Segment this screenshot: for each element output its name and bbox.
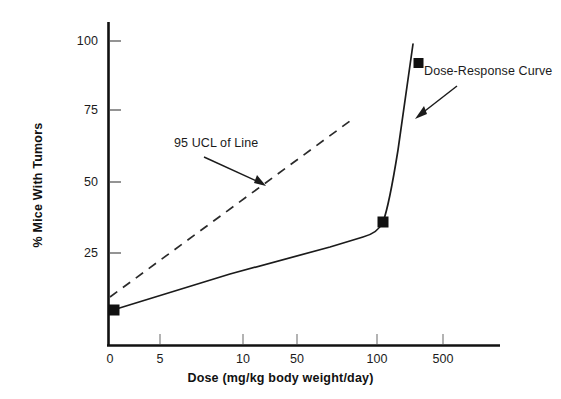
- data-point-markers: [109, 58, 424, 316]
- dose-response-curve: [113, 44, 413, 310]
- ucl-annotation-arrow: [204, 157, 266, 186]
- dose-response-annotation-arrow: [415, 86, 457, 119]
- x-tick-label-5: 5: [156, 352, 163, 366]
- x-tick-label-0: 0: [106, 352, 113, 366]
- y-tick-label-75: 75: [48, 103, 98, 117]
- data-point-marker: [414, 58, 424, 68]
- y-axis-title: % Mice With Tumors: [31, 85, 45, 285]
- dose-response-chart-figure: 100 75 50 25 0 5 10 50 100 500 Dose (mg/…: [0, 0, 561, 399]
- x-tick-label-100: 100: [366, 352, 387, 366]
- annotation-ucl-label: 95 UCL of Line: [174, 136, 258, 150]
- data-point-marker: [378, 217, 389, 228]
- y-tick-label-100: 100: [48, 34, 98, 48]
- x-tick-label-50: 50: [290, 352, 304, 366]
- x-axis-ticks: [160, 334, 443, 344]
- x-axis-title: Dose (mg/kg body weight/day): [0, 371, 561, 385]
- y-tick-label-50: 50: [48, 175, 98, 189]
- x-tick-label-10: 10: [236, 352, 250, 366]
- x-tick-label-500: 500: [432, 352, 453, 366]
- annotation-dose-response-label: Dose-Response Curve: [424, 64, 552, 78]
- y-tick-label-25: 25: [48, 246, 98, 260]
- chart-plot-area: [0, 0, 561, 399]
- y-axis-ticks: [110, 41, 121, 253]
- data-point-marker: [109, 305, 120, 316]
